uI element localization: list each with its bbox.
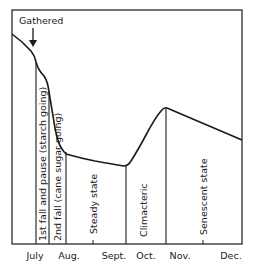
x-tick-label: Oct. [136,250,155,261]
gathered-label: Gathered [19,15,63,26]
x-tick-label: Nov. [170,250,191,261]
gathered-arrow-head-icon [29,40,37,47]
phase-label-1: 1st fall and pause (starch going) [37,87,48,241]
phase-label-2: 2nd fall (cane sugar going) [52,113,63,241]
x-tick-label: Aug. [58,250,80,261]
x-tick-label: July [25,250,43,261]
x-tick-label: Sept. [102,250,127,261]
phase-label-5: Senescent state [198,158,209,235]
x-tick-label: Dec. [220,250,241,261]
chart: Gathered 1st fall and pause (starch goin… [0,0,253,267]
phase-label-3: Steady state [88,174,99,234]
phase-label-4: Climacteric [138,183,149,237]
